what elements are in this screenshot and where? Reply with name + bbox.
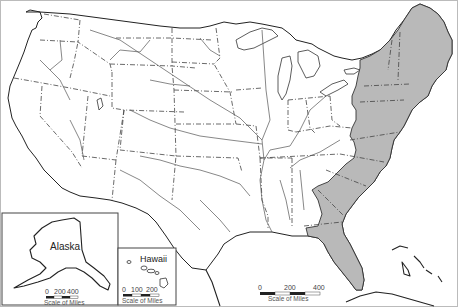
svg-text:400: 400 (67, 288, 79, 295)
svg-text:Scale of Miles: Scale of Miles (122, 297, 163, 304)
svg-text:200: 200 (54, 288, 66, 295)
svg-text:Scale of Miles: Scale of Miles (268, 295, 309, 302)
svg-text:400: 400 (313, 284, 325, 291)
svg-text:200: 200 (284, 284, 296, 291)
svg-text:200: 200 (146, 286, 158, 293)
svg-text:0: 0 (122, 286, 126, 293)
svg-text:100: 100 (131, 286, 143, 293)
hawaii-inset: Hawaii 0 100 200 Scale of Miles (118, 248, 176, 305)
svg-text:Scale of Miles: Scale of Miles (44, 299, 85, 306)
svg-text:0: 0 (45, 288, 49, 295)
alaska-inset: Alaska 0 200 400 Scale of Miles (2, 213, 118, 306)
alaska-label: Alaska (50, 241, 80, 252)
hawaii-label: Hawaii (140, 254, 167, 264)
svg-text:0: 0 (258, 284, 262, 291)
us-map: Alaska 0 200 400 Scale of Miles Hawaii 0… (0, 0, 458, 307)
